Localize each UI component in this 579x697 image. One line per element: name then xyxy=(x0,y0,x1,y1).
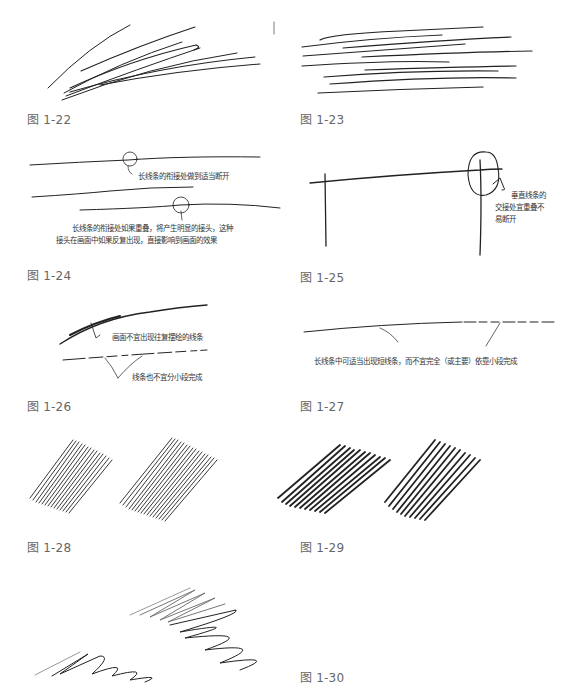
figure-1-29: 图 1-29 xyxy=(290,420,579,560)
annotation-text: 长线条的衔接处做到适当断开 xyxy=(138,171,229,182)
annotation-text: 交接处宜重叠不 xyxy=(495,202,544,213)
figure-caption: 图 1-24 xyxy=(27,266,71,283)
figure-caption: 图 1-27 xyxy=(300,397,344,414)
figure-caption: 图 1-29 xyxy=(300,538,344,555)
annotation-text: 长线条的衔接处如果重叠，将产生明显的接头，这种 xyxy=(72,223,233,234)
annotation-text: 垂直线条的 xyxy=(511,190,546,201)
sketch-zigzag-strokes xyxy=(0,570,579,697)
annotation-text: 线条也不宜分小段完成 xyxy=(132,372,202,383)
figure-caption: 图 1-28 xyxy=(27,538,71,555)
figure-1-24: 长线条的衔接处做到适当断开 长线条的衔接处如果重叠，将产生明显的接头，这种 接头… xyxy=(0,140,290,285)
annotation-text: 易断开 xyxy=(495,214,516,225)
figure-caption: 图 1-22 xyxy=(27,110,71,127)
figure-1-30: 图 1-30 xyxy=(0,570,579,697)
annotation-text: 长线条中可适当出现短线条，而不宜完全（或主要）依靠小段完成 xyxy=(314,356,517,367)
sketch-line-joints xyxy=(0,140,290,285)
annotation-text: 画面不宜出现往复摆绘的线条 xyxy=(112,332,203,343)
figure-1-26: 画面不宜出现往复摆绘的线条 线条也不宜分小段完成 图 1-26 xyxy=(0,290,290,415)
figure-caption: 图 1-23 xyxy=(300,110,344,127)
figure-1-27: 长线条中可适当出现短线条，而不宜完全（或主要）依靠小段完成 图 1-27 xyxy=(290,290,579,415)
figure-caption: 图 1-26 xyxy=(27,397,71,414)
annotation-text: 接头在画面中如果反复出现，直接影响到画面的效果 xyxy=(56,235,217,246)
figure-1-23: 图 1-23 xyxy=(290,0,579,140)
figure-1-28: 图 1-28 xyxy=(0,420,290,560)
figure-1-22: 图 1-22 xyxy=(0,0,290,140)
figure-caption: 图 1-25 xyxy=(300,268,344,285)
figure-caption: 图 1-30 xyxy=(300,668,344,685)
figure-1-25: 垂直线条的 交接处宜重叠不 易断开 图 1-25 xyxy=(290,140,579,285)
